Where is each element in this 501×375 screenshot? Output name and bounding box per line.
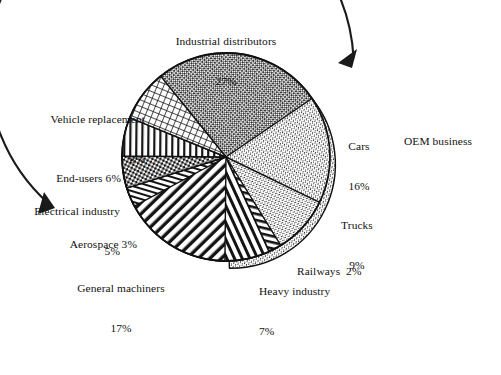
label-vehicle-replacement-name: Vehicle replacement bbox=[10, 113, 145, 126]
label-cars-name: Cars bbox=[328, 140, 390, 153]
label-trucks-name: Trucks bbox=[325, 219, 389, 232]
label-industrial-distributors-value: 27% bbox=[136, 75, 316, 88]
arrow-head-top-icon bbox=[338, 49, 357, 68]
label-general-machiners: General machiners 17% bbox=[51, 255, 191, 362]
label-trucks-value: 9% bbox=[325, 259, 389, 272]
label-general-machiners-name: General machiners bbox=[51, 282, 191, 295]
label-heavy-industry-value: 7% bbox=[259, 325, 379, 338]
label-oem-business: OEM business bbox=[404, 108, 500, 175]
label-aerospace-name: Aerospace 3% bbox=[20, 238, 137, 251]
label-cars-value: 16% bbox=[328, 180, 390, 193]
label-general-machiners-value: 17% bbox=[51, 322, 191, 335]
label-industrial-distributors-name: Industrial distributors bbox=[136, 35, 316, 48]
label-industrial-distributors: Industrial distributors 27% bbox=[136, 8, 316, 115]
pie-chart-figure: Industrial distributors 27% Vehicle repl… bbox=[0, 0, 501, 375]
label-oem-business-name: OEM business bbox=[404, 135, 500, 148]
label-cars: Cars 16% bbox=[328, 113, 390, 220]
